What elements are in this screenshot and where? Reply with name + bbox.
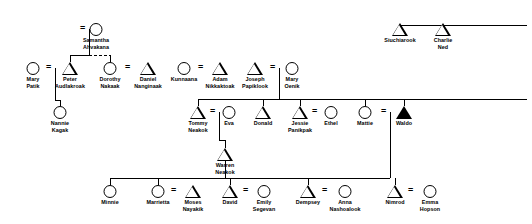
- person-label: NannieKagak: [51, 120, 69, 133]
- person-label: Minnie: [101, 199, 118, 206]
- marriage-equals-kunnaana-adam: =: [198, 63, 203, 72]
- marriage-equals-marrietta-moses: =: [171, 186, 176, 195]
- male-triangle-icon: [185, 185, 201, 198]
- male-triangle-icon: [300, 185, 316, 198]
- male-triangle-icon: [435, 23, 451, 36]
- person-label: Marrietta: [146, 199, 169, 206]
- person-label: JessiePanikpak: [288, 120, 312, 133]
- person-label: Waldo: [396, 120, 412, 127]
- male-triangle-icon: [387, 185, 403, 198]
- person-label: JosephPapiklook: [242, 76, 268, 89]
- female-circle-icon: [258, 185, 271, 198]
- male-triangle-icon: [255, 106, 271, 119]
- person-label: DorothyNakaak: [99, 76, 120, 89]
- female-circle-icon: [359, 106, 372, 119]
- female-circle-icon: [178, 62, 191, 75]
- male-triangle-icon: [212, 62, 228, 75]
- person-label: Nimrod: [385, 199, 404, 206]
- female-circle-icon: [54, 106, 67, 119]
- female-circle-icon: [424, 185, 437, 198]
- marriage-equals-tommy-eva: =: [210, 107, 215, 116]
- marriage-equals-joseph-mary: =: [270, 63, 275, 72]
- person-label: CharlieNed: [434, 37, 453, 50]
- kinship-diagram: SamanthaAhvakana Siuchiarook CharlieNed …: [0, 0, 532, 224]
- female-circle-icon: [27, 62, 40, 75]
- marriage-equals-david-emily: =: [243, 186, 248, 195]
- person-label: TommyNeakok: [188, 120, 207, 133]
- person-label: AnnaNashoalook: [329, 199, 360, 212]
- female-circle-icon: [104, 62, 117, 75]
- person-label: Eva: [224, 120, 234, 127]
- person-label: Mattie: [357, 120, 373, 127]
- male-triangle-icon: [62, 62, 78, 75]
- male-triangle-icon: [217, 148, 233, 161]
- male-triangle-icon: [140, 62, 156, 75]
- male-triangle-icon: [222, 185, 238, 198]
- marriage-equals-peter-samantha: =: [80, 24, 85, 33]
- marriage-equals-nimrod-emma: =: [408, 186, 413, 195]
- person-label: David: [223, 199, 238, 206]
- male-triangle-icon: [190, 106, 206, 119]
- person-label: MosesNayakik: [183, 199, 204, 212]
- male-triangle-icon: [392, 23, 408, 36]
- male-triangle-filled-icon: [396, 106, 412, 119]
- marriage-equals-mary-peter: =: [46, 63, 51, 72]
- person-label: SamanthaAhvakana: [83, 37, 109, 50]
- person-label: WarrenNeakok: [215, 162, 234, 175]
- female-circle-icon: [152, 185, 165, 198]
- person-label: AdamNikkaktoak: [206, 76, 235, 89]
- female-circle-icon: [104, 185, 117, 198]
- marriage-equals-dempsey-anna: =: [322, 186, 327, 195]
- person-label: Dempsey: [296, 199, 320, 206]
- person-label: EmilySegevan: [253, 199, 276, 212]
- female-circle-icon: [90, 23, 103, 36]
- person-label: Kunnaana: [171, 76, 197, 83]
- person-label: MaryOenik: [284, 76, 299, 89]
- person-label: Donald: [254, 120, 273, 127]
- person-label: EmmaHopson: [420, 199, 440, 212]
- person-label: PeterAudlakroak: [55, 76, 85, 89]
- person-label: Siuchiarook: [384, 37, 415, 44]
- person-label: MaryPatik: [26, 76, 39, 89]
- marriage-equals-mattie-waldo: =: [381, 107, 386, 116]
- female-circle-icon: [325, 106, 338, 119]
- male-triangle-icon: [292, 106, 308, 119]
- person-label: Ethel: [324, 120, 337, 127]
- female-circle-icon: [286, 62, 299, 75]
- female-circle-icon: [339, 185, 352, 198]
- female-circle-icon: [223, 106, 236, 119]
- marriage-equals-jessie-ethel: =: [312, 107, 317, 116]
- marriage-equals-dorothy-daniel: =: [125, 63, 130, 72]
- person-label: DanielNanginaak: [134, 76, 162, 89]
- male-triangle-icon: [247, 62, 263, 75]
